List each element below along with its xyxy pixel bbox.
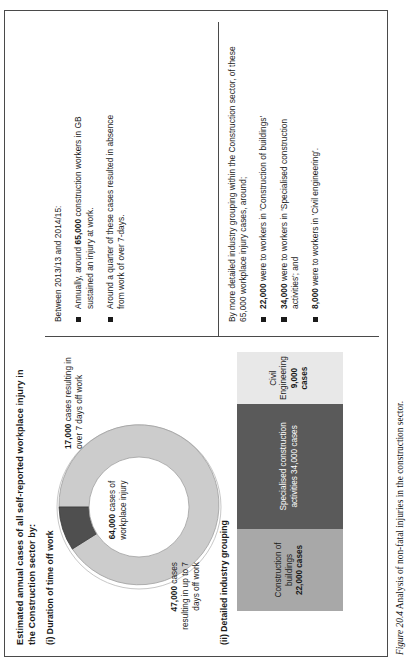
bullet-bold: 65,000	[73, 219, 83, 245]
figure-caption-text: Analysis of non-fatal injuries in the co…	[395, 401, 405, 609]
donut-callout-over7days: 17,000 cases resulting in over 7 days of…	[63, 357, 85, 449]
bar-segment-civil-engineering: Civil Engineering 9,000 cases	[237, 352, 343, 404]
square-bullet-icon	[76, 317, 81, 322]
donut-callout-upto7days-value: 47,000	[169, 586, 179, 611]
list-item: 34,000 were to workers in 'Specialised c…	[279, 104, 302, 322]
page-title: Estimated annual cases of all self-repor…	[14, 355, 38, 645]
figure-grid: (i) Duration of time off work	[45, 22, 379, 645]
figure-caption: Figure 20.4 Analysis of non-fatal injuri…	[388, 10, 407, 657]
donut-hole	[89, 457, 189, 557]
panel-annual-summary-lead: Between 2013/13 and 2014/15:	[53, 24, 64, 322]
list-item: Annually, around 65,000 construction wor…	[73, 104, 96, 322]
bar-segment-label: Construction of buildings	[274, 533, 295, 607]
bar-segment-value: 22,000 cases	[295, 533, 306, 607]
bar-segment-value: 9,000 cases	[290, 356, 311, 400]
panel-industry-breakdown-lead: By more detailed industry grouping withi…	[227, 24, 250, 322]
rotated-figure-wrapper: Estimated annual cases of all self-repor…	[0, 0, 409, 667]
figure-root: Estimated annual cases of all self-repor…	[0, 0, 409, 667]
bar-segment-specialised-construction-activities: Specialised construction activities 34,0…	[237, 404, 343, 529]
figure-row-industry: (ii) Detailed industry grouping Construc…	[219, 22, 379, 645]
list-item: 22,000 were to workers in 'Construction …	[258, 104, 269, 322]
bar-segment-label: Specialised construction activities 34,0…	[279, 408, 300, 525]
donut-callout-upto7days: 47,000 cases resulting in up to 7 days o…	[169, 562, 201, 640]
donut-callout-over7days-value: 17,000	[63, 424, 73, 449]
square-bullet-icon	[261, 317, 266, 322]
figure-caption-number: Figure 20.4	[395, 611, 405, 655]
bar-segment-label: Civil Engineering	[269, 356, 290, 400]
bullet-pre: Annually, around	[73, 244, 83, 309]
donut-chart: 64,000 cases of workplace injury 17,000 …	[57, 343, 219, 645]
square-bullet-icon	[108, 317, 113, 322]
figure-frame: Estimated annual cases of all self-repor…	[4, 10, 388, 657]
list-item: 8,000 were to workers in 'Civil engineer…	[310, 104, 321, 322]
stacked-bar: Construction of buildings 22,000 cases S…	[237, 373, 343, 611]
panel-annual-summary: Between 2013/13 and 2014/15: Annually, a…	[45, 22, 219, 337]
donut-center-value: 64,000	[107, 514, 117, 539]
square-bullet-icon	[313, 317, 318, 322]
list-item: Around a quarter of these cases resulted…	[105, 104, 128, 322]
panel-industry-breakdown-bullets: 22,000 were to workers in 'Construction …	[258, 24, 321, 322]
bullet-post: were to workers in 'Construction of buil…	[258, 116, 268, 284]
panel-industry-breakdown: By more detailed industry grouping withi…	[219, 22, 379, 337]
donut-center-label: 64,000 cases of workplace injury	[107, 461, 129, 559]
bullet-bold: 8,000	[310, 288, 320, 309]
bullet-bold: 34,000	[279, 283, 289, 309]
bullet-post: were to workers in 'Specialised construc…	[279, 119, 300, 309]
figure-row-duration: (i) Duration of time off work	[45, 22, 219, 645]
section-industry: (ii) Detailed industry grouping Construc…	[219, 337, 379, 645]
stacked-bar-chart: Construction of buildings 22,000 cases S…	[231, 343, 379, 645]
square-bullet-icon	[281, 317, 286, 322]
panel-annual-summary-bullets: Annually, around 65,000 construction wor…	[73, 24, 127, 322]
bullet-post: were to workers in 'Civil engineering'.	[310, 148, 320, 288]
bullet-bold: 22,000	[258, 283, 268, 309]
section-duration: (i) Duration of time off work	[45, 337, 219, 645]
bar-segment-construction-of-buildings: Construction of buildings 22,000 cases	[237, 529, 343, 611]
bullet-pre: Around a quarter of these cases resulted…	[105, 115, 126, 309]
